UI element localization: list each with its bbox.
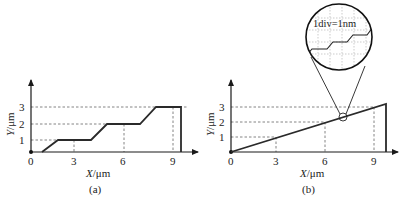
panel-b: 1div=1nm 3 2 1 0 3 6 9 X/μm Y/μm (b) <box>204 4 398 196</box>
diagram-canvas: 3 2 1 0 3 6 9 X/μm Y/μm (a) <box>0 0 403 199</box>
panel-b-ytick-1: 1 <box>219 131 225 143</box>
panel-a-ytick-2: 2 <box>19 118 25 130</box>
panel-b-x-label: X/μm <box>299 167 325 179</box>
panel-a-guides <box>31 107 187 152</box>
panel-a: 3 2 1 0 3 6 9 X/μm Y/μm (a) <box>4 80 198 196</box>
magnifier-scale-label: 1div=1nm <box>313 18 356 29</box>
panel-a-xtick-6: 6 <box>120 155 126 167</box>
panel-b-y-label: Y/μm <box>204 112 216 136</box>
panel-b-xtick-0: 0 <box>228 155 234 167</box>
panel-b-ytick-3: 3 <box>219 101 225 113</box>
panel-a-y-label: Y/μm <box>4 112 16 136</box>
panel-a-step-curve <box>42 107 181 152</box>
magnifier: 1div=1nm <box>306 4 373 121</box>
panel-a-xtick-9: 9 <box>170 155 176 167</box>
panel-b-xtick-6: 6 <box>322 155 328 167</box>
panel-a-origin-dot <box>29 150 33 154</box>
panel-a-ytick-1: 1 <box>19 134 25 146</box>
panel-b-xtick-3: 3 <box>273 155 279 167</box>
panel-a-caption: (a) <box>89 183 102 196</box>
panel-b-ramp-line <box>231 104 386 152</box>
panel-b-xtick-9: 9 <box>371 155 377 167</box>
panel-b-ytick-2: 2 <box>219 116 225 128</box>
panel-a-xtick-0: 0 <box>28 155 34 167</box>
panel-a-ytick-3: 3 <box>19 101 25 113</box>
panel-b-caption: (b) <box>302 183 315 196</box>
panel-a-x-label: X/μm <box>85 167 111 179</box>
magnifier-lens <box>306 4 372 70</box>
panel-a-xtick-3: 3 <box>71 155 77 167</box>
magnifier-step-curve <box>306 27 373 56</box>
